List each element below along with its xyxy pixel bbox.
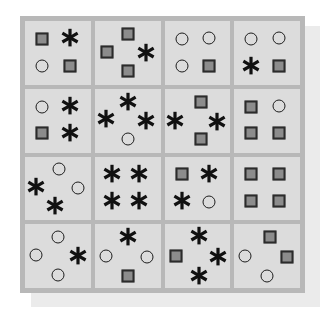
filled-square-icon	[203, 59, 216, 72]
hollow-circle-icon	[141, 250, 154, 263]
filled-square-icon	[121, 269, 134, 282]
grid-cell-r4c3[interactable]	[165, 224, 231, 288]
filled-square-icon	[272, 168, 285, 181]
filled-square-icon	[245, 100, 258, 113]
grid-cell-r2c2[interactable]	[95, 89, 161, 153]
asterisk-star-icon	[136, 42, 156, 62]
grid-cell-r2c3[interactable]	[165, 89, 231, 153]
grid-cell-r3c2[interactable]	[95, 157, 161, 221]
grid-cell-r3c4[interactable]	[234, 157, 300, 221]
filled-square-icon	[272, 195, 285, 208]
asterisk-star-icon	[208, 246, 228, 266]
filled-square-icon	[280, 251, 293, 264]
asterisk-star-icon	[118, 91, 138, 111]
asterisk-star-icon	[189, 265, 209, 285]
hollow-circle-icon	[99, 250, 112, 263]
grid-cell-r2c1[interactable]	[25, 89, 91, 153]
filled-square-icon	[100, 45, 113, 58]
filled-square-icon	[245, 195, 258, 208]
asterisk-star-icon	[60, 123, 80, 143]
asterisk-star-icon	[45, 196, 65, 216]
filled-square-icon	[272, 59, 285, 72]
asterisk-star-icon	[172, 191, 192, 211]
grid-cell-r4c1[interactable]	[25, 224, 91, 288]
hollow-circle-icon	[245, 32, 258, 45]
hollow-circle-icon	[51, 268, 64, 281]
grid-cell-r1c4[interactable]	[234, 21, 300, 85]
filled-square-icon	[170, 250, 183, 263]
hollow-circle-icon	[175, 32, 188, 45]
asterisk-star-icon	[118, 227, 138, 247]
grid-cell-r1c2[interactable]	[95, 21, 161, 85]
grid-cell-r4c2[interactable]	[95, 224, 161, 288]
grid-cell-r3c3[interactable]	[165, 157, 231, 221]
asterisk-star-icon	[96, 109, 116, 129]
hollow-circle-icon	[121, 133, 134, 146]
asterisk-star-icon	[60, 28, 80, 48]
asterisk-star-icon	[60, 96, 80, 116]
filled-square-icon	[36, 32, 49, 45]
hollow-circle-icon	[175, 59, 188, 72]
asterisk-star-icon	[189, 226, 209, 246]
filled-square-icon	[195, 95, 208, 108]
figure-stage	[0, 0, 327, 314]
asterisk-star-icon	[199, 163, 219, 183]
asterisk-star-icon	[207, 111, 227, 131]
filled-square-icon	[195, 133, 208, 146]
grid-cell-r1c1[interactable]	[25, 21, 91, 85]
hollow-circle-icon	[51, 231, 64, 244]
hollow-circle-icon	[36, 100, 49, 113]
filled-square-icon	[272, 127, 285, 140]
asterisk-star-icon	[102, 191, 122, 211]
hollow-circle-icon	[203, 32, 216, 45]
shape-grid-board	[20, 16, 305, 293]
hollow-circle-icon	[203, 195, 216, 208]
filled-square-icon	[245, 168, 258, 181]
hollow-circle-icon	[272, 32, 285, 45]
asterisk-star-icon	[241, 55, 261, 75]
asterisk-star-icon	[165, 110, 185, 130]
asterisk-star-icon	[136, 110, 156, 130]
grid-cell-r3c1[interactable]	[25, 157, 91, 221]
hollow-circle-icon	[272, 99, 285, 112]
asterisk-star-icon	[129, 163, 149, 183]
grid-cell-r4c4[interactable]	[234, 224, 300, 288]
asterisk-star-icon	[26, 177, 46, 197]
filled-square-icon	[121, 27, 134, 40]
filled-square-icon	[63, 59, 76, 72]
grid-cell-r2c4[interactable]	[234, 89, 300, 153]
asterisk-star-icon	[129, 191, 149, 211]
filled-square-icon	[121, 64, 134, 77]
hollow-circle-icon	[261, 269, 274, 282]
asterisk-star-icon	[102, 163, 122, 183]
hollow-circle-icon	[71, 182, 84, 195]
hollow-circle-icon	[239, 250, 252, 263]
hollow-circle-icon	[30, 248, 43, 261]
filled-square-icon	[263, 231, 276, 244]
filled-square-icon	[36, 127, 49, 140]
hollow-circle-icon	[53, 163, 66, 176]
filled-square-icon	[245, 127, 258, 140]
asterisk-star-icon	[68, 246, 88, 266]
grid-cell-r1c3[interactable]	[165, 21, 231, 85]
hollow-circle-icon	[36, 59, 49, 72]
filled-square-icon	[175, 168, 188, 181]
